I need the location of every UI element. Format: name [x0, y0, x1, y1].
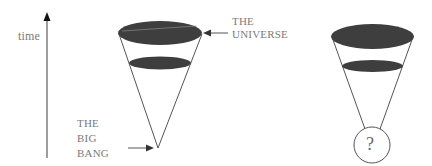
big-bang-arrow [128, 145, 154, 152]
universe-now-ellipse-right [331, 24, 414, 49]
universe-now-ellipse [118, 21, 202, 45]
universe-past-ellipse [129, 57, 191, 70]
universe-label: THE UNIVERSE [232, 15, 288, 41]
cosmology-diagram: time THE UNIVERSE THE BIG BANG ? [0, 0, 432, 166]
universe-past-ellipse-right [342, 60, 403, 72]
universe-arrow [203, 30, 228, 37]
big-bang-label: THE BIG BANG [77, 116, 109, 161]
big-bang-label-line1: THE [77, 116, 109, 131]
question-mark: ? [366, 134, 374, 154]
universe-label-line1: THE [232, 15, 288, 28]
big-bang-cone [118, 21, 202, 148]
time-label: time [18, 30, 40, 43]
big-bang-label-line2: BIG [77, 131, 109, 146]
big-bang-label-line3: BANG [77, 146, 109, 161]
time-arrow [44, 12, 51, 158]
universe-label-line2: UNIVERSE [232, 28, 288, 41]
